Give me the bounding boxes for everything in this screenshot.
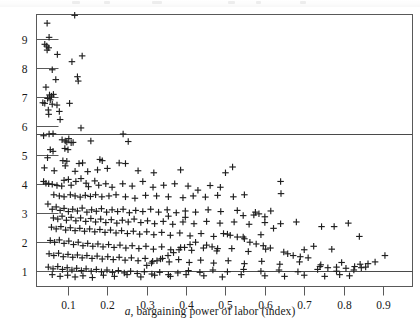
data-point — [88, 215, 95, 222]
data-point — [51, 168, 58, 175]
data-point — [160, 218, 167, 225]
y-tick-label-9: 9 — [22, 34, 28, 46]
data-point — [258, 268, 265, 275]
data-point — [64, 272, 71, 279]
data-point — [143, 229, 150, 236]
data-point — [210, 267, 217, 274]
data-point — [89, 274, 96, 281]
data-point — [57, 273, 64, 280]
data-point — [262, 273, 269, 280]
data-point — [128, 255, 135, 261]
data-point — [58, 183, 65, 190]
data-point — [175, 256, 182, 263]
data-point — [247, 239, 254, 246]
data-point — [72, 193, 79, 200]
data-point — [56, 108, 63, 115]
data-point — [305, 255, 312, 261]
data-point — [116, 160, 123, 167]
data-point — [165, 194, 172, 201]
data-point — [158, 244, 165, 251]
data-point — [57, 116, 64, 123]
data-point — [158, 229, 165, 236]
data-point — [197, 257, 204, 264]
data-point — [175, 270, 182, 277]
data-point — [186, 259, 193, 266]
data-point — [234, 207, 241, 214]
data-point — [126, 209, 133, 216]
plot-canvas: 123456789 0.10.20.30.40.50.60.70.80.9 — [0, 0, 420, 329]
data-point — [72, 168, 79, 175]
data-point — [318, 223, 325, 230]
data-point — [132, 207, 139, 214]
data-point — [358, 264, 365, 271]
data-point — [222, 170, 229, 177]
data-point — [84, 168, 91, 175]
data-point — [110, 256, 117, 263]
data-point — [276, 267, 283, 274]
data-point — [129, 183, 136, 190]
data-point — [43, 84, 50, 91]
data-point — [214, 192, 221, 199]
data-point — [151, 170, 158, 177]
data-point — [217, 220, 224, 227]
y-tick-label-8: 8 — [22, 63, 28, 75]
data-point — [218, 208, 225, 215]
data-point — [345, 220, 352, 227]
y-tick-label-1: 1 — [22, 266, 28, 278]
data-point — [45, 111, 52, 118]
data-point — [268, 208, 275, 215]
data-point — [295, 268, 302, 275]
data-point — [258, 258, 265, 265]
data-point — [68, 214, 75, 221]
data-point — [191, 220, 198, 227]
data-point — [331, 223, 338, 230]
data-point — [301, 272, 308, 279]
data-point — [122, 194, 129, 201]
data-point — [53, 76, 60, 83]
data-point — [346, 273, 353, 280]
data-point — [142, 192, 149, 199]
data-point — [167, 232, 174, 239]
data-point — [281, 273, 288, 280]
data-point — [119, 181, 126, 188]
reference-lines — [37, 135, 413, 272]
data-point — [190, 193, 197, 200]
data-point — [138, 219, 145, 226]
data-point — [203, 218, 210, 225]
data-point — [71, 12, 78, 19]
data-point — [210, 233, 217, 240]
y-tick-label-5: 5 — [22, 150, 28, 162]
data-point — [329, 246, 336, 253]
data-point — [103, 219, 110, 226]
data-point — [49, 67, 56, 74]
data-point — [51, 192, 58, 199]
data-point — [79, 53, 86, 60]
data-point — [140, 178, 147, 185]
y-tick-label-6: 6 — [22, 121, 28, 133]
x-axis-label-text: , bargaining power of labor (index) — [130, 305, 295, 317]
data-point — [297, 253, 304, 260]
data-point — [201, 273, 208, 280]
data-point — [240, 212, 247, 219]
data-point — [210, 260, 217, 267]
data-point — [160, 182, 167, 189]
data-point — [65, 176, 72, 183]
data-point — [372, 259, 379, 266]
data-point — [173, 209, 180, 216]
data-point — [115, 267, 122, 274]
data-point — [338, 259, 345, 266]
y-tick-label-2: 2 — [22, 237, 28, 249]
data-point — [117, 242, 124, 249]
data-point — [270, 225, 277, 232]
data-point — [64, 158, 71, 165]
data-point — [49, 181, 56, 188]
data-point — [129, 242, 136, 249]
data-point — [73, 178, 80, 185]
data-point — [122, 257, 128, 264]
data-point — [293, 219, 300, 226]
data-point — [94, 167, 101, 174]
data-point — [262, 214, 269, 221]
data-point — [195, 187, 202, 194]
data-point — [151, 220, 158, 227]
data-point — [80, 273, 87, 280]
